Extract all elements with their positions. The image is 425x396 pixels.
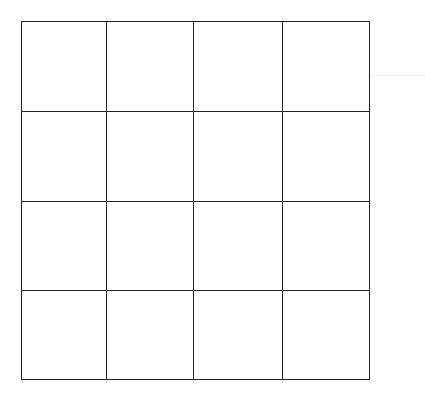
- grid-cell-r4-c2: [106, 290, 195, 380]
- empty-grid-4x4: [0, 0, 425, 396]
- grid-cell-r2-c4: [282, 111, 370, 203]
- grid-cell-r3-c4: [282, 201, 370, 292]
- grid-cell-r4-c4: [282, 290, 370, 380]
- grid-cell-r2-c2: [106, 111, 195, 203]
- grid-cell-r2-c1: [21, 111, 108, 203]
- grid-cell-r1-c1: [21, 21, 108, 113]
- grid-cell-r4-c1: [21, 290, 108, 380]
- faint-artifact-line: [370, 75, 425, 76]
- grid-cell-r2-c3: [193, 111, 284, 203]
- grid-cell-r4-c3: [193, 290, 284, 380]
- grid-cell-r1-c2: [106, 21, 195, 113]
- grid-cell-r1-c3: [193, 21, 284, 113]
- grid-cell-r3-c2: [106, 201, 195, 292]
- grid-cell-r1-c4: [282, 21, 370, 113]
- grid-cell-r3-c3: [193, 201, 284, 292]
- grid-cell-r3-c1: [21, 201, 108, 292]
